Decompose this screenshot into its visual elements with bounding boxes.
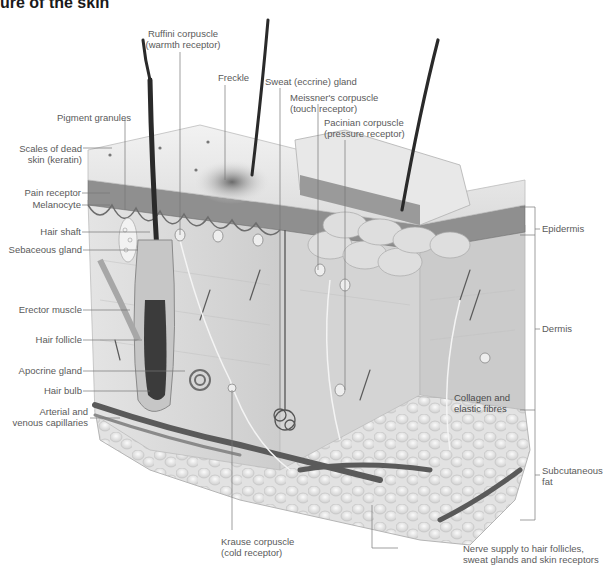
label-line-2: fat	[542, 476, 603, 487]
label-line-2: venous capillaries	[0, 417, 88, 428]
label-nerve-supply: Nerve supply to hair follicles, sweat gl…	[463, 543, 599, 565]
label-dermis: Dermis	[542, 323, 572, 334]
label-line-1: Nerve supply to hair follicles,	[463, 543, 599, 554]
label-line-1: Meissner's corpuscle	[290, 92, 378, 103]
label-sweat-gland: Sweat (eccrine) gland	[265, 76, 357, 87]
label-subcutaneous-fat: Subcutaneous fat	[542, 465, 603, 487]
label-hair-bulb: Hair bulb	[0, 385, 82, 396]
label-sebaceous-gland: Sebaceous gland	[0, 244, 82, 255]
label-arterial-venous-capillaries: Arterial and venous capillaries	[0, 406, 88, 428]
label-collagen-elastic-fibres: Collagen and elastic fibres	[454, 392, 510, 414]
label-hair-shaft: Hair shaft	[6, 226, 81, 237]
label-freckle: Freckle	[218, 72, 249, 83]
label-meissners-corpuscle: Meissner's corpuscle (touch receptor)	[290, 92, 378, 114]
label-line-1: Subcutaneous	[542, 465, 603, 476]
hair-follicle	[134, 240, 175, 411]
label-line-1: Krause corpuscle	[221, 536, 294, 547]
label-line-2: elastic fibres	[454, 403, 510, 414]
freckle	[194, 160, 270, 204]
label-ruffini-corpuscle: Ruffini corpuscle (warmth receptor)	[142, 28, 224, 50]
label-line-2: (touch receptor)	[290, 103, 378, 114]
sebaceous-gland	[119, 218, 137, 262]
label-line-1: Ruffini corpuscle	[142, 28, 224, 39]
label-erector-muscle: Erector muscle	[0, 304, 82, 315]
label-line-2: (cold receptor)	[221, 547, 294, 558]
label-pain-receptor: Pain receptor	[6, 187, 81, 198]
label-line-2: skin (keratin)	[6, 154, 82, 165]
label-line-2: (pressure receptor)	[324, 128, 405, 139]
label-scales-of-dead-skin: Scales of dead skin (keratin)	[6, 143, 82, 165]
label-line-1: Scales of dead	[6, 143, 82, 154]
label-apocrine-gland: Apocrine gland	[0, 365, 82, 376]
label-line-2: (warmth receptor)	[142, 39, 224, 50]
label-epidermis: Epidermis	[542, 223, 584, 234]
label-line-2: sweat glands and skin receptors	[463, 554, 599, 565]
label-melanocyte: Melanocyte	[6, 199, 81, 210]
label-line-1: Pacinian corpuscle	[324, 117, 405, 128]
label-line-1: Collagen and	[454, 392, 510, 403]
label-pigment-granules: Pigment granules	[57, 112, 131, 123]
label-krause-corpuscle: Krause corpuscle (cold receptor)	[221, 536, 294, 558]
label-pacinian-corpuscle: Pacinian corpuscle (pressure receptor)	[324, 117, 405, 139]
label-line-1: Arterial and	[0, 406, 88, 417]
label-hair-follicle: Hair follicle	[0, 334, 82, 345]
